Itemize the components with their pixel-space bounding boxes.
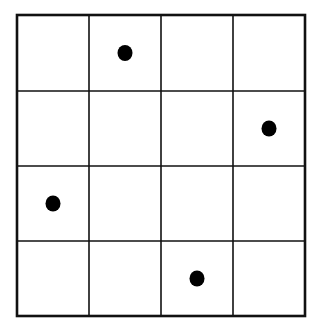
grid-cell xyxy=(17,15,89,91)
grid-cell xyxy=(233,166,305,241)
dot-marker xyxy=(118,45,133,61)
grid-cell xyxy=(161,91,233,166)
grid-svg xyxy=(0,0,321,331)
grid-cell xyxy=(89,166,161,241)
grid-cell xyxy=(17,91,89,166)
grid-cell xyxy=(161,166,233,241)
grid-cell xyxy=(17,241,89,316)
dot-marker xyxy=(190,271,205,287)
grid-cell xyxy=(161,15,233,91)
grid-cell xyxy=(89,241,161,316)
grid-cell xyxy=(233,241,305,316)
dot-marker xyxy=(46,196,61,212)
grid-cell xyxy=(233,15,305,91)
grid-cell xyxy=(89,91,161,166)
grid-diagram xyxy=(0,0,321,331)
dot-marker xyxy=(262,121,277,137)
